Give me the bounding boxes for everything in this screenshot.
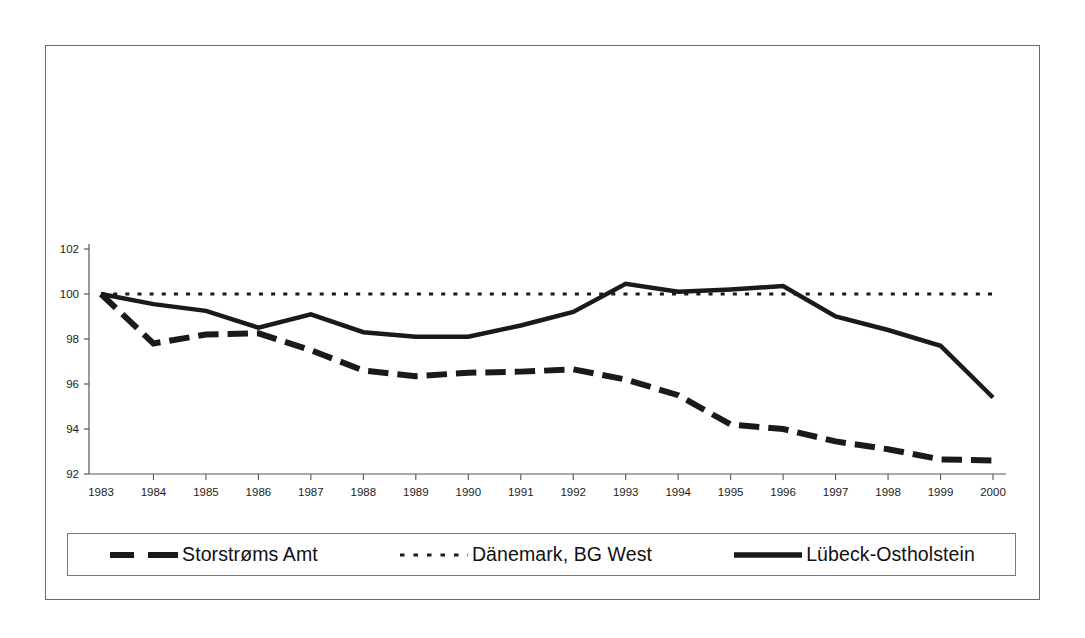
legend-item-danemark-bg-west: Dänemark, BG West	[398, 543, 652, 566]
y-tick-label: 92	[66, 468, 79, 480]
x-tick-label: 1991	[508, 486, 534, 498]
x-tick-label: 1999	[928, 486, 954, 498]
x-tick-label: 1986	[246, 486, 272, 498]
plot-area: 92949698100102 1983198419851986198719881…	[46, 46, 1041, 524]
x-tick-label: 1987	[298, 486, 324, 498]
y-axis: 92949698100102	[60, 243, 89, 480]
x-tick-label: 1984	[141, 486, 167, 498]
line-chart-svg: 92949698100102 1983198419851986198719881…	[46, 46, 1041, 524]
series-line-l-beck-ostholstein	[101, 284, 993, 398]
y-tick-label: 98	[66, 333, 79, 345]
x-tick-label: 1990	[455, 486, 481, 498]
chart-figure-frame: 92949698100102 1983198419851986198719881…	[45, 45, 1040, 600]
x-tick-label: 1989	[403, 486, 429, 498]
legend-label-lubeck-ostholstein: Lübeck-Ostholstein	[806, 543, 975, 566]
x-tick-label: 1995	[718, 486, 744, 498]
solid-thick-line-icon	[732, 546, 804, 564]
x-axis: 1983198419851986198719881989199019911992…	[88, 474, 1006, 498]
dashed-thick-line-icon	[108, 546, 180, 564]
data-series-group	[101, 284, 993, 461]
legend-label-danemark-bg-west: Dänemark, BG West	[472, 543, 652, 566]
x-tick-label: 2000	[980, 486, 1006, 498]
dotted-line-icon	[398, 546, 470, 564]
x-tick-label: 1993	[613, 486, 639, 498]
y-tick-label: 96	[66, 378, 79, 390]
y-tick-label: 100	[60, 288, 79, 300]
chart-legend: Storstrøms Amt Dänemark, BG West Lübeck-…	[67, 533, 1016, 576]
x-tick-label: 1985	[193, 486, 219, 498]
x-tick-label: 1992	[560, 486, 586, 498]
y-tick-label: 94	[66, 423, 79, 435]
x-tick-label: 1988	[351, 486, 377, 498]
x-tick-label: 1996	[770, 486, 796, 498]
legend-label-storstroms-amt: Storstrøms Amt	[182, 543, 318, 566]
x-tick-label: 1997	[823, 486, 849, 498]
y-tick-label: 102	[60, 243, 79, 255]
x-tick-label: 1994	[665, 486, 691, 498]
legend-item-lubeck-ostholstein: Lübeck-Ostholstein	[732, 543, 975, 566]
legend-item-storstroms-amt: Storstrøms Amt	[108, 543, 318, 566]
x-tick-label: 1983	[88, 486, 114, 498]
x-tick-label: 1998	[875, 486, 901, 498]
